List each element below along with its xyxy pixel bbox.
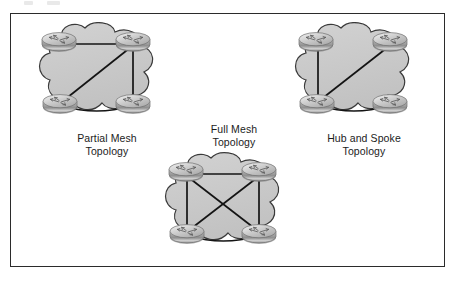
figure-frame: Partial Mesh Topology Full Mesh Topology	[10, 13, 445, 267]
hub-spoke-diagram	[279, 22, 449, 142]
router-top-left	[42, 33, 76, 52]
router-hub-bottom-left	[300, 95, 334, 114]
router-bottom-right	[373, 95, 407, 114]
router-top-right	[373, 33, 407, 52]
scan-artifact	[47, 1, 60, 5]
router-top-right	[116, 33, 150, 52]
router-bottom-right	[242, 225, 276, 244]
router-top-left	[169, 163, 203, 182]
router-top-left	[299, 33, 333, 52]
router-top-right	[242, 163, 276, 182]
scan-artifact	[24, 1, 33, 5]
topology-hub-spoke: Hub and Spoke Topology	[279, 22, 449, 157]
router-bottom-right	[116, 95, 150, 114]
router-bottom-left	[170, 225, 204, 244]
router-bottom-left	[43, 95, 77, 114]
topology-label-hub-spoke: Hub and Spoke Topology	[279, 132, 449, 157]
full-mesh-diagram	[149, 150, 319, 275]
